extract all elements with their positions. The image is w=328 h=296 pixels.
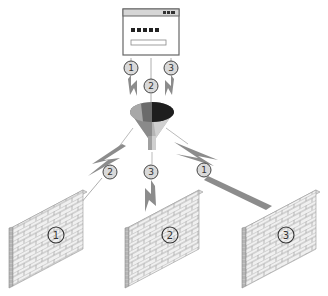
lightning-bolt-icon (145, 180, 156, 212)
svg-text:3: 3 (283, 230, 289, 241)
lightning-bolt-icon (128, 75, 137, 96)
outbound-connectors (70, 128, 272, 216)
inbound-badge-3: 3 (164, 61, 178, 75)
firewall-2: 2 (125, 190, 203, 288)
svg-text:1: 1 (201, 165, 207, 175)
svg-text:1: 1 (128, 63, 134, 73)
inbound-badge-1: 1 (124, 61, 138, 75)
lightning-bolt-icon (165, 75, 174, 96)
svg-text:2: 2 (148, 81, 154, 91)
outbound-badge-2: 2 (103, 165, 117, 179)
outbound-badge-1: 1 (197, 163, 211, 177)
firewall-1: 1 (9, 190, 87, 288)
network-diagram: 1 2 3 2 3 (0, 0, 328, 296)
svg-text:3: 3 (168, 63, 174, 73)
svg-text:2: 2 (107, 167, 113, 177)
svg-text:1: 1 (53, 230, 59, 241)
svg-text:2: 2 (167, 230, 173, 241)
login-window (123, 9, 179, 55)
svg-text:3: 3 (148, 167, 154, 177)
outbound-badge-3: 3 (144, 165, 158, 179)
lightning-bolt-icon (174, 142, 218, 166)
window-controls-icon (163, 11, 175, 14)
firewall-3: 3 (242, 190, 320, 288)
funnel-icon (130, 102, 174, 150)
input-field (131, 40, 166, 45)
inbound-badge-2: 2 (144, 79, 158, 93)
